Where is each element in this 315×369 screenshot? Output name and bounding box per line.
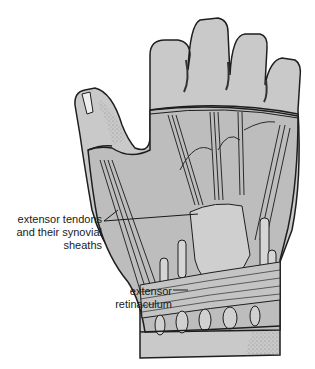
label-extensor-retinaculum: extensor retinaculum: [115, 285, 172, 311]
compartment: [250, 306, 260, 326]
label-line: extensor tendons: [16, 213, 102, 226]
label-line: retinaculum: [115, 298, 172, 311]
compartment: [199, 309, 211, 331]
label-extensor-tendons: extensor tendons and their synovial shea…: [16, 213, 102, 252]
sheath-capsule: [178, 240, 186, 278]
compartment: [223, 307, 237, 329]
label-line: and their synovial: [16, 226, 102, 239]
hand-illustration: [0, 0, 315, 369]
compartment: [176, 311, 188, 333]
label-line: extensor: [115, 285, 172, 298]
label-line: sheaths: [16, 239, 102, 252]
